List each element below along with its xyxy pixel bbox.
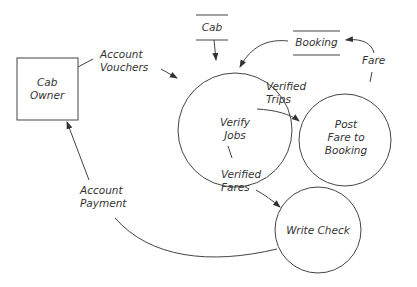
verified-fares-label: Verified Fares [221,168,261,194]
flow-verified-trips-arrow [257,109,299,121]
flow-booking-to-verify-arrow [240,41,288,67]
post-fare-label: Post Fare to Booking [318,118,374,157]
flow-account-payment-arrow [115,218,277,257]
account-payment-label: Account Payment [80,184,126,210]
flow-account-vouchers-arrow [161,69,177,78]
verify-jobs-label: Verify Jobs [212,116,258,142]
flow-owner-label-leader [78,59,93,67]
flow-cab-to-verify-arrow [214,40,216,60]
data-flow-diagram: Cab Owner Verify Jobs Post Fare to Booki… [0,0,417,287]
verified-trips-label: Verified Trips [266,80,306,106]
cab-store-label: Cab [196,21,228,34]
account-vouchers-label: Account Vouchers [100,48,148,74]
cab-owner-label: Cab Owner [30,76,64,102]
write-check-label: Write Check [280,224,356,237]
fare-label: Fare [362,54,385,67]
flow-verified-fares-leader [228,146,232,158]
booking-store-label: Booking [293,36,340,49]
flow-account-payment-leader [67,122,89,180]
